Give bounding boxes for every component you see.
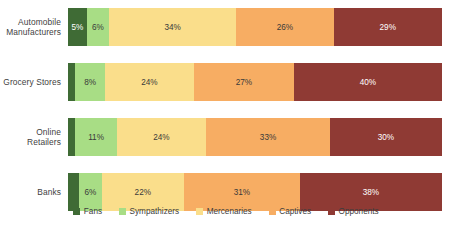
legend-item-fans[interactable]: Fans (73, 207, 102, 216)
category-label-line: Grocery Stores (0, 77, 61, 88)
legend-item-opponents[interactable]: Opponents (328, 207, 379, 216)
category-label-line: Banks (0, 187, 61, 198)
legend-label: Fans (84, 207, 102, 216)
bar-segment-opponents[interactable]: 30% (330, 118, 442, 156)
category-label: Banks (0, 187, 68, 198)
bar-segment-fans[interactable] (68, 63, 75, 101)
chart-legend: FansSympathizersMercenariesCaptivesOppon… (0, 207, 452, 216)
stacked-bar: 6%22%31%38% (68, 173, 442, 211)
bar-segment-opponents[interactable]: 29% (334, 8, 442, 46)
category-label: Online Retailers (0, 127, 68, 148)
bar-segment-sympathizers[interactable]: 8% (75, 63, 105, 101)
chart-plot-area: AutomobileManufacturers5%6%34%26%29%Groc… (0, 8, 452, 228)
chart-row: Online Retailers11%24%33%30% (0, 118, 452, 156)
bar-segment-captives[interactable]: 31% (184, 173, 300, 211)
legend-swatch-icon (119, 208, 126, 215)
chart-row: Banks6%22%31%38% (0, 173, 452, 211)
category-label: AutomobileManufacturers (0, 17, 68, 38)
bar-segment-fans[interactable] (68, 118, 75, 156)
legend-item-mercenaries[interactable]: Mercenaries (196, 207, 252, 216)
stacked-bar: 11%24%33%30% (68, 118, 442, 156)
legend-item-sympathizers[interactable]: Sympathizers (119, 207, 179, 216)
category-label-line: Online Retailers (0, 127, 61, 148)
bar-segment-mercenaries[interactable]: 22% (102, 173, 184, 211)
bar-segment-captives[interactable]: 26% (236, 8, 333, 46)
bar-segment-sympathizers[interactable]: 6% (87, 8, 109, 46)
bar-segment-sympathizers[interactable]: 11% (75, 118, 116, 156)
bar-segment-mercenaries[interactable]: 24% (117, 118, 207, 156)
legend-swatch-icon (269, 208, 276, 215)
stacked-bar: 5%6%34%26%29% (68, 8, 442, 46)
category-label-line: Automobile (0, 17, 61, 28)
bar-segment-fans[interactable]: 5% (68, 8, 87, 46)
stacked-bar: 8%24%27%40% (68, 63, 442, 101)
bar-segment-sympathizers[interactable]: 6% (79, 173, 101, 211)
legend-swatch-icon (196, 208, 203, 215)
category-label: Grocery Stores (0, 77, 68, 88)
chart-row: Grocery Stores8%24%27%40% (0, 63, 452, 101)
legend-label: Mercenaries (207, 207, 252, 216)
legend-swatch-icon (328, 208, 335, 215)
legend-swatch-icon (73, 208, 80, 215)
bar-segment-fans[interactable] (68, 173, 79, 211)
bar-segment-opponents[interactable]: 38% (300, 173, 442, 211)
bar-segment-mercenaries[interactable]: 24% (105, 63, 194, 101)
stacked-bar-chart: AutomobileManufacturers5%6%34%26%29%Groc… (0, 0, 452, 238)
bar-segment-captives[interactable]: 27% (194, 63, 294, 101)
chart-row: AutomobileManufacturers5%6%34%26%29% (0, 8, 452, 46)
bar-segment-captives[interactable]: 33% (206, 118, 329, 156)
legend-label: Opponents (339, 207, 379, 216)
legend-label: Captives (279, 207, 311, 216)
legend-label: Sympathizers (130, 207, 180, 216)
bar-segment-opponents[interactable]: 40% (294, 63, 442, 101)
legend-item-captives[interactable]: Captives (269, 207, 311, 216)
category-label-line: Manufacturers (0, 27, 61, 38)
bar-segment-mercenaries[interactable]: 34% (109, 8, 236, 46)
